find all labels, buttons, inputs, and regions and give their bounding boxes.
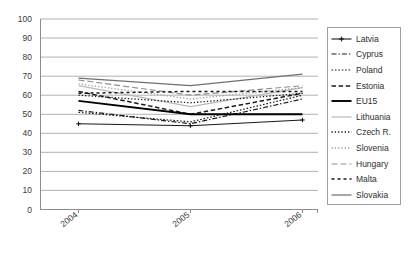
legend-item-slovenia[interactable]: Slovenia bbox=[331, 140, 398, 156]
legend-item-czech-r[interactable]: Czech R. bbox=[331, 125, 398, 141]
legend-item-label: EU15 bbox=[356, 96, 377, 106]
x-tick-label: 2004 bbox=[59, 210, 79, 229]
legend-line-swatch-icon bbox=[331, 173, 352, 185]
line-chart: 1009080706050403020100 200420052006 Latv… bbox=[0, 0, 409, 257]
legend-item-label: Estonia bbox=[356, 81, 384, 91]
legend-line-swatch-icon bbox=[331, 48, 352, 60]
legend-item-latvia[interactable]: Latvia bbox=[331, 31, 398, 47]
legend-item-hungary[interactable]: Hungary bbox=[331, 156, 398, 172]
legend-line-swatch-icon bbox=[331, 33, 352, 45]
legend-line-swatch-icon bbox=[331, 111, 352, 123]
legend-item-label: Hungary bbox=[356, 159, 388, 169]
legend-item-label: Poland bbox=[356, 65, 382, 75]
legend-line-swatch-icon bbox=[331, 142, 352, 154]
legend-line-swatch-icon bbox=[331, 80, 352, 92]
legend-item-label: Czech R. bbox=[356, 127, 391, 137]
x-tick-label: 2005 bbox=[171, 210, 191, 229]
legend-item-label: Cyprus bbox=[356, 49, 383, 59]
legend-item-label: Lithuania bbox=[356, 112, 391, 122]
legend-item-poland[interactable]: Poland bbox=[331, 62, 398, 78]
legend-item-label: Slovenia bbox=[356, 143, 389, 153]
legend-line-swatch-icon bbox=[331, 95, 352, 107]
legend-item-malta[interactable]: Malta bbox=[331, 171, 398, 187]
legend-item-label: Latvia bbox=[356, 34, 379, 44]
legend-item-label: Slovakia bbox=[356, 190, 388, 200]
legend-item-estonia[interactable]: Estonia bbox=[331, 78, 398, 94]
legend-item-cyprus[interactable]: Cyprus bbox=[331, 47, 398, 63]
legend-item-eu15[interactable]: EU15 bbox=[331, 93, 398, 109]
legend-line-swatch-icon bbox=[331, 64, 352, 76]
legend-line-swatch-icon bbox=[331, 189, 352, 201]
x-tick-label: 2006 bbox=[283, 210, 303, 229]
legend-item-label: Malta bbox=[356, 174, 377, 184]
legend-item-slovakia[interactable]: Slovakia bbox=[331, 187, 398, 203]
legend-line-swatch-icon bbox=[331, 158, 352, 170]
legend-item-lithuania[interactable]: Lithuania bbox=[331, 109, 398, 125]
legend: LatviaCyprusPolandEstoniaEU15LithuaniaCz… bbox=[327, 27, 401, 205]
legend-line-swatch-icon bbox=[331, 126, 352, 138]
